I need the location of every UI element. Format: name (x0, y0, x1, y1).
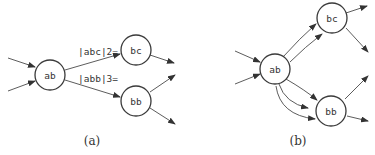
edge-ab-bc (290, 34, 322, 62)
panel-b: ab bc bb (b) (235, 3, 368, 148)
outgoing-edge (150, 55, 174, 63)
node-ab-label: ab (269, 64, 281, 75)
node-bb-label: bb (130, 96, 142, 107)
outgoing-edge (150, 75, 175, 92)
caption-a: (a) (84, 134, 101, 148)
incoming-edge (8, 81, 35, 91)
outgoing-edge (347, 116, 368, 121)
caption-b: (b) (289, 134, 306, 148)
incoming-edge (235, 74, 260, 84)
edge-ab-bb (286, 79, 317, 100)
incoming-edge (8, 58, 35, 67)
incoming-edge (235, 51, 260, 62)
outgoing-edge (346, 6, 367, 13)
edge-label-abc: |abc|2= (78, 46, 118, 57)
edge-ab-bc (283, 24, 316, 57)
diagram-canvas: ab bc bb |abc|2= |abb|3= (a) ab bc bb (b… (0, 0, 375, 155)
node-bc-label: bc (326, 13, 337, 24)
outgoing-edge (346, 28, 368, 52)
outgoing-edge (345, 76, 368, 99)
node-ab-label: ab (44, 70, 56, 81)
edge-label-abb: |abb|3= (78, 73, 118, 84)
node-bb-label: bb (325, 106, 337, 117)
panel-a: ab bc bb |abc|2= |abb|3= (a) (8, 35, 175, 148)
outgoing-edge (150, 108, 175, 124)
node-bc-label: bc (130, 45, 141, 56)
